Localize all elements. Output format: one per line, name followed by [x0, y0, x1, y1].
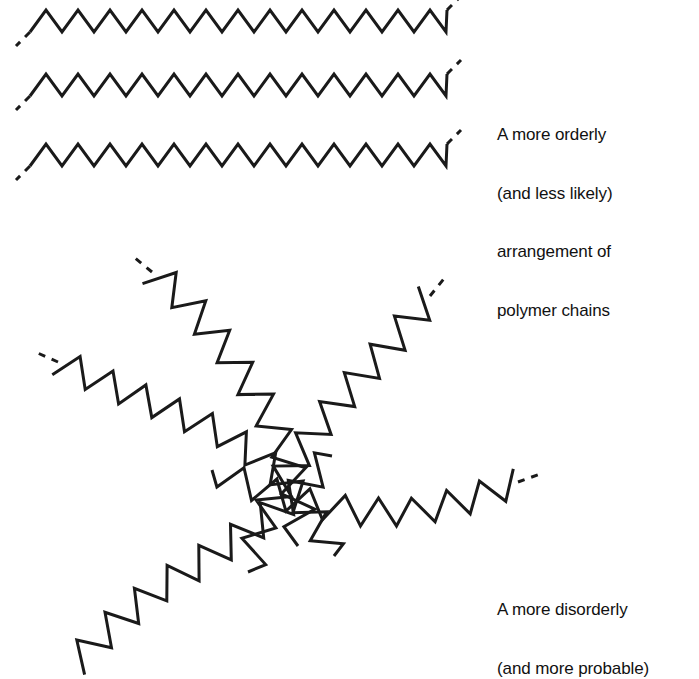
ordered-chain-3-dash-left — [16, 166, 30, 180]
tangled-chain-east-dash-start — [518, 475, 539, 483]
ordered-chain-2-dash-right — [447, 60, 461, 74]
disordered-chains-group — [38, 258, 539, 675]
caption-disordered-line-2: (and more probable) — [497, 659, 649, 679]
tangled-chain-north — [143, 273, 315, 547]
caption-ordered-line-3: arrangement of — [497, 242, 612, 262]
tangled-chain-east — [212, 468, 513, 526]
ordered-chain-2 — [30, 74, 447, 96]
caption-ordered-line-4: polymer chains — [497, 301, 612, 321]
ordered-chain-1-dash-right — [447, 0, 461, 10]
tangled-chain-northeast — [242, 287, 430, 572]
polymer-chain-figure: A more orderly (and less likely) arrange… — [0, 0, 699, 679]
tangled-chain-southwest — [77, 453, 332, 675]
ordered-chain-3 — [30, 144, 447, 166]
caption-disordered-line-1: A more disorderly — [497, 600, 649, 620]
tangled-chain-west — [52, 357, 343, 557]
caption-ordered-line-1: A more orderly — [497, 125, 612, 145]
tangled-chain-north-dash-start — [135, 258, 152, 272]
tangled-chain-west-dash-start — [38, 353, 58, 362]
ordered-chain-3-dash-right — [447, 130, 461, 144]
caption-ordered: A more orderly (and less likely) arrange… — [497, 86, 612, 359]
caption-disordered: A more disorderly (and more probable) ar… — [497, 561, 649, 679]
ordered-chain-1 — [30, 10, 447, 32]
ordered-chains-group — [16, 0, 461, 180]
ordered-chain-2-dash-left — [16, 96, 30, 110]
tangled-chain-northeast-dash-start — [430, 279, 444, 296]
ordered-chain-1-dash-left — [16, 32, 30, 46]
caption-ordered-line-2: (and less likely) — [497, 184, 612, 204]
